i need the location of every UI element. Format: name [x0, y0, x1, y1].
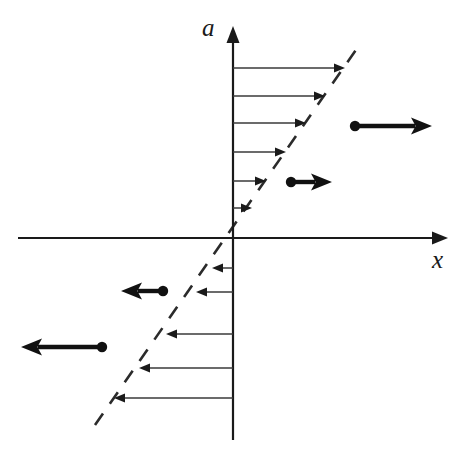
- phase-diagram-canvas: a x: [0, 0, 466, 464]
- a-axis-arrowhead: [227, 26, 240, 43]
- lower-left-flow-arrow-group: [114, 264, 233, 403]
- a-axis-label: a: [202, 14, 215, 41]
- upper-right-flow-arrow-group: [233, 64, 345, 213]
- flow-arrow-head: [196, 288, 207, 297]
- a-axis-group: [227, 26, 240, 440]
- flow-arrow-head: [275, 148, 286, 157]
- flow-arrow-head: [314, 92, 325, 101]
- bold-arrow-middle-right-tail-dot: [286, 177, 296, 187]
- flow-arrow-head: [334, 64, 345, 73]
- flow-arrow-head: [166, 330, 177, 339]
- bold-arrow-group: [21, 118, 432, 356]
- x-axis-label: x: [431, 246, 443, 273]
- flow-arrow-head: [255, 177, 266, 186]
- bold-arrow-lower-left-tail-dot: [97, 342, 107, 352]
- bold-arrow-upper-right-tail-dot: [350, 121, 360, 131]
- bold-arrow-middle-left-tail-dot: [158, 286, 168, 296]
- flow-arrow-head: [139, 364, 150, 373]
- flow-arrow-head: [212, 264, 223, 273]
- x-axis-arrowhead: [432, 232, 448, 245]
- phase-diagram-figure: a x: [0, 0, 466, 464]
